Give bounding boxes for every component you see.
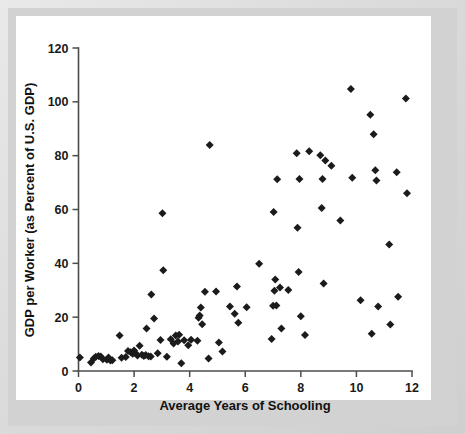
ticks-group [73, 48, 413, 377]
tick-labels-group: 020406080100120024681012 [48, 42, 419, 396]
scatter-chart: 020406080100120024681012 Average Years o… [0, 0, 465, 434]
data-point [234, 319, 242, 327]
data-point [318, 204, 326, 212]
data-point [371, 166, 379, 174]
data-point [154, 349, 162, 357]
data-point [320, 280, 328, 288]
data-point [293, 149, 301, 157]
data-point [243, 303, 251, 311]
data-point [297, 312, 305, 320]
axis-titles-group: Average Years of Schooling GDP per Worke… [22, 83, 331, 413]
data-point [336, 217, 344, 225]
data-point [348, 174, 356, 182]
data-point [327, 162, 335, 170]
data-point [197, 303, 205, 311]
data-point [319, 175, 327, 183]
data-point [158, 209, 166, 217]
x-tick-label: 6 [242, 381, 249, 395]
data-point [321, 157, 329, 165]
y-tick-label: 0 [62, 365, 69, 379]
data-point [206, 141, 214, 149]
data-point [316, 151, 324, 159]
data-point [218, 348, 226, 356]
data-point [163, 353, 171, 361]
data-point [385, 240, 393, 248]
x-tick-label: 4 [186, 381, 193, 395]
data-point [255, 260, 263, 268]
x-tick-label: 10 [349, 381, 363, 395]
data-point [370, 130, 378, 138]
y-axis-title: GDP per Worker (as Percent of U.S. GDP) [22, 83, 37, 338]
y-tick-label: 40 [55, 257, 69, 271]
data-point [201, 288, 209, 296]
data-point [305, 147, 313, 155]
data-point [231, 310, 239, 318]
data-point [136, 342, 144, 350]
x-tick-label: 0 [75, 381, 82, 395]
data-point [357, 296, 365, 304]
data-point [233, 282, 241, 290]
data-point [284, 286, 292, 294]
data-point [76, 354, 84, 362]
data-point [270, 208, 278, 216]
data-point [402, 95, 410, 103]
data-point [177, 359, 185, 367]
x-tick-label: 12 [405, 381, 419, 395]
data-point [159, 266, 167, 274]
axes-group [79, 48, 413, 371]
x-axis-title: Average Years of Schooling [159, 398, 330, 413]
y-tick-label: 120 [48, 42, 69, 56]
data-point [393, 168, 401, 176]
data-point [198, 320, 206, 328]
data-point [293, 224, 301, 232]
data-point [143, 324, 151, 332]
data-point [394, 293, 402, 301]
data-point [215, 338, 223, 346]
data-point [205, 355, 213, 363]
data-point [374, 302, 382, 310]
data-point [301, 331, 309, 339]
y-tick-label: 60 [55, 203, 69, 217]
x-tick-label: 8 [297, 381, 304, 395]
data-point [271, 275, 279, 283]
data-point [212, 288, 220, 296]
data-point [226, 302, 234, 310]
data-point [268, 335, 276, 343]
chart-svg: 020406080100120024681012 Average Years o… [0, 0, 465, 434]
data-point [403, 189, 411, 197]
data-point [372, 176, 380, 184]
data-markers-group [76, 85, 411, 367]
data-point [116, 331, 124, 339]
data-point [295, 175, 303, 183]
data-point [273, 175, 281, 183]
data-point [147, 291, 155, 299]
data-point [156, 336, 164, 344]
y-tick-label: 20 [55, 311, 69, 325]
data-point [347, 85, 355, 93]
data-point [366, 111, 374, 119]
data-point [193, 337, 201, 345]
x-tick-label: 2 [131, 381, 138, 395]
data-point [368, 330, 376, 338]
y-tick-label: 80 [55, 149, 69, 163]
data-point [277, 324, 285, 332]
data-point [386, 320, 394, 328]
data-point [150, 315, 158, 323]
y-tick-label: 100 [48, 95, 69, 109]
data-point [295, 268, 303, 276]
